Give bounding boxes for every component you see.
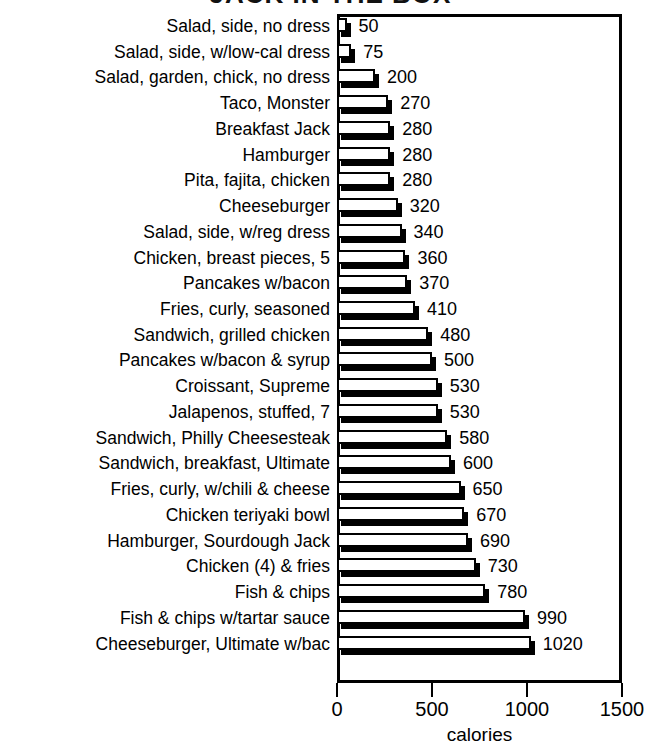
bar-body bbox=[337, 121, 390, 135]
bar-row: Cheeseburger, Ultimate w/bac1020 bbox=[0, 632, 661, 658]
bar bbox=[337, 554, 482, 580]
category-label: Chicken teriyaki bowl bbox=[0, 503, 330, 529]
category-label: Jalapenos, stuffed, 7 bbox=[0, 400, 330, 426]
bar-body bbox=[337, 352, 432, 366]
bar-value-label: 340 bbox=[414, 220, 444, 246]
bar-row: Croissant, Supreme530 bbox=[0, 374, 661, 400]
x-axis-tick bbox=[336, 683, 338, 697]
bar-value-label: 200 bbox=[387, 65, 417, 91]
category-label: Fries, curly, seasoned bbox=[0, 297, 330, 323]
bar bbox=[337, 632, 537, 658]
x-axis-tick bbox=[526, 683, 528, 697]
bar bbox=[337, 580, 491, 606]
bar-row: Hamburger280 bbox=[0, 143, 661, 169]
bar-body bbox=[337, 301, 415, 315]
bar-body bbox=[337, 533, 468, 547]
bar-body bbox=[337, 455, 451, 469]
category-label: Pancakes w/bacon bbox=[0, 271, 330, 297]
bar-row: Breakfast Jack280 bbox=[0, 117, 661, 143]
x-axis-tick bbox=[621, 683, 623, 697]
category-label: Fish & chips w/tartar sauce bbox=[0, 606, 330, 632]
bar-body bbox=[337, 404, 438, 418]
category-label: Hamburger, Sourdough Jack bbox=[0, 529, 330, 555]
category-label: Salad, side, no dress bbox=[0, 14, 330, 40]
bar-body bbox=[337, 18, 347, 32]
bar-row: Salad, side, no dress50 bbox=[0, 14, 661, 40]
category-label: Croissant, Supreme bbox=[0, 374, 330, 400]
category-label: Chicken, breast pieces, 5 bbox=[0, 246, 330, 272]
bar-body bbox=[337, 250, 405, 264]
x-axis-label: calories bbox=[337, 724, 622, 746]
bar bbox=[337, 477, 467, 503]
bar bbox=[337, 451, 457, 477]
bar-value-label: 670 bbox=[476, 503, 506, 529]
bar bbox=[337, 168, 396, 194]
category-label: Sandwich, Philly Cheesesteak bbox=[0, 426, 330, 452]
category-label: Cheeseburger bbox=[0, 194, 330, 220]
bar bbox=[337, 374, 444, 400]
bar-value-label: 370 bbox=[419, 271, 449, 297]
category-label: Fish & chips bbox=[0, 580, 330, 606]
bar-row: Fries, curly, w/chili & cheese650 bbox=[0, 477, 661, 503]
category-label: Pancakes w/bacon & syrup bbox=[0, 348, 330, 374]
category-label: Salad, garden, chick, no dress bbox=[0, 65, 330, 91]
bar-body bbox=[337, 558, 476, 572]
bar-body bbox=[337, 172, 390, 186]
x-axis: calories 050010001500 bbox=[0, 683, 661, 750]
bar bbox=[337, 246, 411, 272]
x-axis-tick-label: 0 bbox=[297, 697, 377, 721]
category-label: Taco, Monster bbox=[0, 91, 330, 117]
bar-value-label: 1020 bbox=[543, 632, 583, 658]
bar-value-label: 280 bbox=[402, 117, 432, 143]
bar-value-label: 990 bbox=[537, 606, 567, 632]
bar-body bbox=[337, 147, 390, 161]
bar-body bbox=[337, 69, 375, 83]
category-label: Breakfast Jack bbox=[0, 117, 330, 143]
bar bbox=[337, 220, 408, 246]
bar-rows: Salad, side, no dress50Salad, side, w/lo… bbox=[0, 14, 661, 683]
category-label: Chicken (4) & fries bbox=[0, 554, 330, 580]
bar-value-label: 580 bbox=[459, 426, 489, 452]
bar bbox=[337, 194, 404, 220]
bar-value-label: 75 bbox=[363, 40, 383, 66]
bar-body bbox=[337, 198, 398, 212]
bar-row: Pancakes w/bacon370 bbox=[0, 271, 661, 297]
bar bbox=[337, 297, 421, 323]
bar-value-label: 270 bbox=[400, 91, 430, 117]
bar-row: Sandwich, breakfast, Ultimate600 bbox=[0, 451, 661, 477]
bar-value-label: 480 bbox=[440, 323, 470, 349]
x-axis-tick-label: 1000 bbox=[487, 697, 567, 721]
bar-value-label: 730 bbox=[488, 554, 518, 580]
bar bbox=[337, 271, 413, 297]
bar-row: Hamburger, Sourdough Jack690 bbox=[0, 529, 661, 555]
bar bbox=[337, 503, 470, 529]
bar-body bbox=[337, 327, 428, 341]
chart-title: JACK IN THE BOX bbox=[0, 0, 661, 7]
bar-row: Sandwich, grilled chicken480 bbox=[0, 323, 661, 349]
bar-body bbox=[337, 610, 525, 624]
bar bbox=[337, 65, 381, 91]
bar-value-label: 360 bbox=[417, 246, 447, 272]
bar bbox=[337, 40, 357, 66]
bar bbox=[337, 323, 434, 349]
bar bbox=[337, 400, 444, 426]
category-label: Hamburger bbox=[0, 143, 330, 169]
bar-row: Fries, curly, seasoned410 bbox=[0, 297, 661, 323]
bar-body bbox=[337, 430, 447, 444]
category-label: Salad, side, w/low-cal dress bbox=[0, 40, 330, 66]
category-label: Fries, curly, w/chili & cheese bbox=[0, 477, 330, 503]
bar-value-label: 320 bbox=[410, 194, 440, 220]
bar-body bbox=[337, 378, 438, 392]
bar-row: Chicken teriyaki bowl670 bbox=[0, 503, 661, 529]
bar-row: Sandwich, Philly Cheesesteak580 bbox=[0, 426, 661, 452]
bar bbox=[337, 606, 531, 632]
bar bbox=[337, 14, 353, 40]
bar-row: Fish & chips780 bbox=[0, 580, 661, 606]
bar-body bbox=[337, 275, 407, 289]
bar-body bbox=[337, 584, 485, 598]
x-axis-tick-label: 500 bbox=[392, 697, 472, 721]
bar bbox=[337, 91, 394, 117]
bar-value-label: 280 bbox=[402, 143, 432, 169]
bar-row: Salad, garden, chick, no dress200 bbox=[0, 65, 661, 91]
bar-row: Fish & chips w/tartar sauce990 bbox=[0, 606, 661, 632]
